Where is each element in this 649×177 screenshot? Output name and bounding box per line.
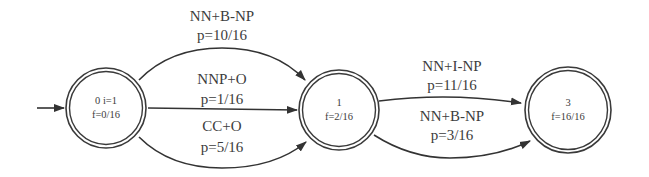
node-3-score: f=16/16: [551, 111, 584, 122]
edge-0-1-upper-tag: NN+B-NP: [190, 8, 254, 24]
edge-1-3-upper-prob: p=11/16: [427, 77, 477, 93]
edge-1-3-upper-tag: NN+I-NP: [422, 58, 481, 74]
edge-1-3-upper: [379, 97, 521, 103]
state-transition-diagram: 0 i=1 f=0/16 1 f=2/16 3 f=16/16 NN+B-NP …: [0, 0, 649, 177]
edge-0-1-middle: [148, 108, 297, 110]
edge-0-1-middle-tag: NNP+O: [197, 71, 246, 87]
state-node-3: 3 f=16/16: [525, 67, 611, 153]
edge-0-1-upper-prob: p=10/16: [197, 27, 248, 43]
edge-0-1-middle-prob: p=1/16: [201, 91, 244, 107]
node-0-label: 0 i=1: [95, 95, 117, 106]
state-node-1: 1 f=2/16: [299, 70, 379, 150]
node-0-score: f=0/16: [92, 109, 120, 120]
edge-0-1-lower-tag: CC+O: [202, 118, 241, 134]
node-3-label: 3: [565, 97, 570, 108]
state-node-0: 0 i=1 f=0/16: [66, 68, 146, 148]
edge-1-3-lower-prob: p=3/16: [431, 127, 474, 143]
node-1-label: 1: [336, 97, 341, 108]
node-1-score: f=2/16: [325, 111, 353, 122]
edge-1-3-lower-tag: NN+B-NP: [420, 108, 484, 124]
edge-0-1-lower-prob: p=5/16: [201, 139, 244, 155]
